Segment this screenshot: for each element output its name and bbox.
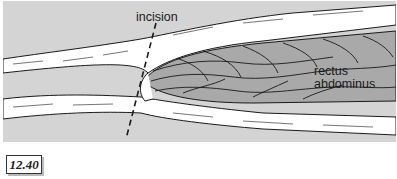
figure-number: 12.40 xyxy=(6,155,42,174)
rectus-abdominus-label: rectus abdominus xyxy=(314,65,375,91)
anatomy-illustration: incision rectus abdominus xyxy=(3,1,396,142)
incision-label: incision xyxy=(136,11,178,24)
rectus-label-line2: abdominus xyxy=(314,78,375,91)
